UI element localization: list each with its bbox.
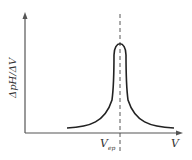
- derivative-curve: [67, 44, 174, 128]
- y-axis-label: ΔpH/ΔV: [7, 56, 18, 99]
- vep-subscript: ep: [108, 144, 116, 152]
- x-axis-arrow-icon: [176, 131, 183, 136]
- x-axis-label: V: [171, 137, 180, 150]
- y-axis-arrow-icon: [23, 12, 28, 19]
- chart: ΔpH/ΔV V V ep: [0, 0, 192, 160]
